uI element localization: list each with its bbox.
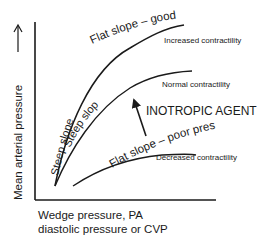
y-axis-arrow-icon: [14, 25, 22, 52]
inotropic-agent-label: INOTROPIC AGENT: [146, 104, 257, 118]
y-axis-label: Mean arterial pressure: [12, 85, 24, 200]
x-axis-label: Wedge pressure, PA diastolic pressure or…: [38, 208, 168, 236]
increased-contractility-label: Increased contractility: [164, 36, 241, 45]
x-axis-label-line2: diastolic pressure or CVP: [38, 222, 168, 236]
normal-contractility-label: Normal contractility: [162, 80, 230, 89]
x-axis-label-line1: Wedge pressure, PA: [38, 208, 168, 222]
decreased-contractility-label: Decreased contractility: [156, 153, 237, 162]
flat-slope-good-label: Flat slope – good pressure: [0, 0, 180, 46]
inotropic-arrow-icon: [134, 100, 146, 136]
